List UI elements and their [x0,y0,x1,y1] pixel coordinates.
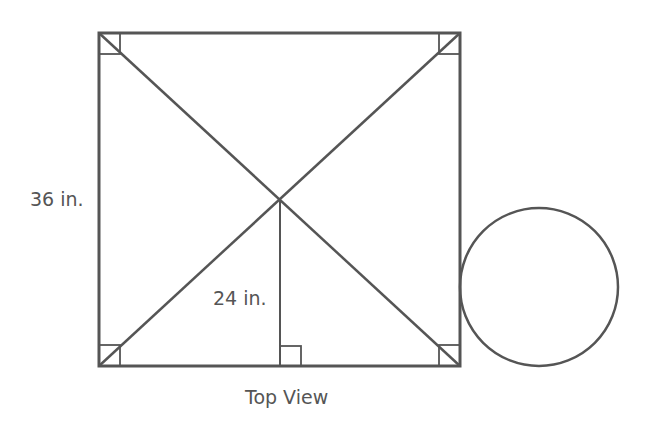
right-angle-marker [280,346,301,366]
side-length-label: 36 in. [30,188,84,210]
height-label: 24 in. [213,287,267,309]
circle-shape [460,208,618,366]
caption-label: Top View [245,386,328,408]
top-view-diagram [0,0,652,424]
